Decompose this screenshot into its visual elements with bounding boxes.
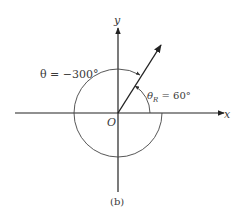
- y-axis-label: y: [113, 14, 121, 27]
- figure-caption: (b): [110, 196, 124, 207]
- x-axis-label: x: [224, 108, 231, 121]
- reference-value: = 60°: [158, 90, 190, 101]
- origin-label: O: [107, 116, 116, 129]
- theta-label: θ = −300°: [40, 68, 99, 81]
- reference-angle-label: θR = 60°: [147, 90, 191, 104]
- angle-diagram: y x O θ = −300° θR = 60° (b): [0, 0, 242, 214]
